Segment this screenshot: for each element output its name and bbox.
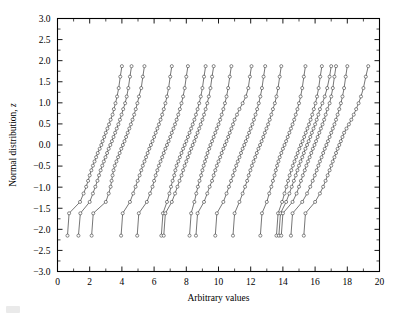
data-point-marker [263,131,266,134]
data-point-marker [178,156,181,159]
data-point-marker [317,164,320,167]
data-point-marker [278,156,281,159]
data-point-marker [238,156,241,159]
data-point-marker [283,192,286,195]
data-point-marker [178,179,181,182]
data-point-marker [202,113,205,116]
data-point-marker [114,102,117,105]
data-point-marker [215,212,218,215]
data-point-marker [299,95,302,98]
data-point-marker [326,174,329,177]
data-point-marker [325,143,328,146]
data-point-marker [117,123,120,126]
data-point-marker [268,192,271,195]
data-point-marker [293,160,296,163]
data-point-marker [285,185,288,188]
data-point-marker [90,169,93,172]
data-point-marker [154,174,157,177]
data-point-marker [331,87,334,90]
data-point-marker [244,185,247,188]
data-point-marker [93,160,96,163]
data-point-marker [291,123,294,126]
data-point-marker [88,200,91,203]
data-point-marker [333,123,336,126]
data-point-marker [316,135,319,138]
data-point-marker [98,147,101,150]
data-point-marker [92,212,95,215]
data-point-marker [289,234,292,237]
data-point-marker [170,131,173,134]
data-point-marker [310,131,313,134]
data-point-marker [194,135,197,138]
data-point-marker [260,140,263,143]
data-point-marker [318,108,321,111]
data-point-marker [77,234,80,237]
data-point-marker [206,102,209,105]
data-point-marker [235,164,238,167]
data-point-marker [149,192,152,195]
data-point-marker [199,95,202,98]
data-point-marker [141,75,144,78]
data-point-marker [255,151,258,154]
data-point-marker [121,212,124,215]
data-point-marker [281,200,284,203]
normal-probability-plot: 02468101214161820−3.0−2.5−2.0−1.5−1.0−0.… [0,0,400,319]
data-point-marker [288,192,291,195]
data-point-marker [275,95,278,98]
data-point-marker [260,212,263,215]
data-point-marker [334,65,337,68]
data-point-marker [326,140,329,143]
data-point-marker [205,156,208,159]
data-point-marker [295,192,298,195]
data-point-marker [259,234,262,237]
data-point-marker [330,131,333,134]
series-line [279,66,331,236]
data-point-marker [274,169,277,172]
data-point-marker [321,102,324,105]
data-point-marker [236,160,239,163]
data-point-marker [309,118,312,121]
series-14 [277,65,332,238]
data-point-marker [82,192,85,195]
data-point-marker [220,151,223,154]
y-tick-label: 3.0 [39,14,51,24]
data-point-marker [111,174,114,177]
data-point-marker [151,140,154,143]
data-point-marker [115,127,118,130]
data-point-marker [217,123,220,126]
x-tick-label: 16 [310,277,320,287]
series-9 [194,65,253,238]
data-point-marker [231,123,234,126]
data-point-marker [162,234,165,237]
data-point-marker [231,234,234,237]
data-point-marker [306,143,309,146]
data-point-marker [251,123,254,126]
data-point-marker [121,143,124,146]
data-point-marker [277,160,280,163]
x-tick-label: 2 [87,277,92,287]
data-point-marker [212,65,215,68]
data-point-marker [280,234,283,237]
data-point-marker [115,160,118,163]
data-point-marker [292,179,295,182]
data-point-marker [318,192,321,195]
data-point-marker [222,108,225,111]
data-point-marker [107,192,110,195]
data-point-marker [169,75,172,78]
data-point-marker [304,212,307,215]
data-point-marker [145,200,148,203]
data-point-marker [167,87,170,90]
x-tick-label: 10 [214,277,224,287]
data-point-marker [146,151,149,154]
data-point-marker [126,131,129,134]
data-point-marker [227,135,230,138]
data-point-marker [299,160,302,163]
data-point-marker [174,169,177,172]
data-point-marker [207,95,210,98]
data-point-marker [125,95,128,98]
data-point-marker [109,185,112,188]
data-point-marker [288,174,291,177]
data-point-marker [157,164,160,167]
data-point-marker [341,135,344,138]
x-tick-label: 20 [375,277,385,287]
